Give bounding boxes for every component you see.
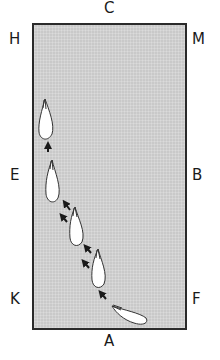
horse-4	[92, 249, 105, 287]
horse-2	[46, 160, 59, 202]
horse-track	[0, 0, 220, 360]
arrows-double-bottom	[101, 293, 106, 299]
horse-5	[112, 305, 147, 324]
arrows-double-upper	[62, 203, 70, 222]
arrows-double-lower	[84, 247, 91, 268]
horse-1	[39, 99, 53, 139]
horse-3	[70, 207, 83, 245]
